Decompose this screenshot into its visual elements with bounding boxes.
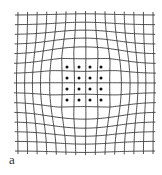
grid-horizontal-line (14, 93, 156, 95)
grid-horizontal-line (14, 112, 155, 119)
dot (89, 77, 92, 80)
dot (78, 88, 81, 91)
dot (89, 66, 92, 69)
grid-horizontal-line (14, 103, 156, 107)
grid-horizontal-line (14, 58, 156, 63)
grid-horizontal-line (14, 71, 156, 74)
panel-label: a (9, 153, 15, 166)
dot (89, 99, 92, 102)
dot (78, 66, 81, 69)
dot (66, 77, 69, 80)
dot (66, 99, 69, 102)
dot (78, 77, 81, 80)
dot (66, 66, 69, 69)
dot (78, 99, 81, 102)
dot (100, 77, 103, 80)
grid-lines (14, 11, 156, 155)
dot (66, 88, 69, 91)
dot (89, 88, 92, 91)
deformed-grid-figure: a (0, 0, 162, 175)
dot (100, 88, 103, 91)
dot (100, 99, 103, 102)
dot (100, 66, 103, 69)
grid-diagram (0, 0, 162, 175)
